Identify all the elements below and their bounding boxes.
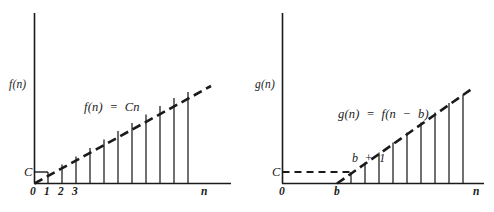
right-dashed-line-gn <box>337 88 473 184</box>
left-x-axis-label: n <box>201 186 208 198</box>
right-x-axis-label: n <box>473 186 480 198</box>
left-xtick-0: 0 <box>30 186 36 198</box>
right-xtick-0: 0 <box>279 186 285 198</box>
left-intercept-label-c: C <box>24 166 33 179</box>
right-y-axis-label: g(n) <box>255 79 275 91</box>
figure-canvas: f(n) C 0 1 2 3 n f(n) = Cn <box>0 0 494 212</box>
right-equation-label: g(n) = f(n − b) <box>338 108 429 121</box>
left-xtick-3: 3 <box>72 186 78 198</box>
panel-right: g(n) C 0 b n g(n) = f(n − b) b + 1 <box>247 0 494 212</box>
right-xtick-b: b <box>334 186 340 198</box>
right-plot-graphics <box>247 0 494 212</box>
panel-left: f(n) C 0 1 2 3 n f(n) = Cn <box>0 0 247 212</box>
left-equation-label: f(n) = Cn <box>84 101 140 114</box>
right-intercept-label-c: C <box>272 166 281 179</box>
left-y-axis-label: f(n) <box>9 79 26 91</box>
left-xtick-1: 1 <box>44 186 50 198</box>
left-xtick-2: 2 <box>58 186 64 198</box>
right-shift-label: b + 1 <box>352 152 386 164</box>
